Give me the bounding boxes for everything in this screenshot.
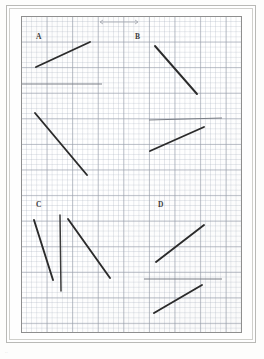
- segment-b1: [155, 46, 197, 94]
- segment-c1: [34, 220, 53, 280]
- page-corner-mark: ..: [5, 349, 8, 354]
- section-label-c: C: [36, 201, 42, 209]
- section-label-d: D: [158, 201, 164, 209]
- segment-d1: [156, 225, 204, 262]
- graph-paper-grid: ABCD: [21, 16, 242, 333]
- segment-a3: [35, 113, 87, 175]
- segment-a1: [36, 42, 90, 67]
- section-label-a: A: [36, 33, 42, 41]
- segment-b3: [150, 127, 204, 151]
- segment-c3: [68, 219, 110, 278]
- segment-b2: [149, 118, 222, 120]
- line-segments-layer: [22, 17, 242, 333]
- segment-c2: [60, 215, 61, 291]
- scale-arrow-annotation: [100, 20, 138, 24]
- section-label-b: B: [135, 33, 140, 41]
- segment-d3: [154, 285, 202, 313]
- worksheet-page: ABCD ..: [0, 0, 264, 359]
